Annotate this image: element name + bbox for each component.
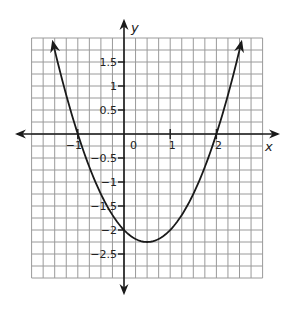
y-tick-label: 1 bbox=[110, 80, 117, 93]
y-tick-label: −2 bbox=[101, 224, 117, 237]
y-tick-label: −0.5 bbox=[90, 152, 117, 165]
x-axis-label: x bbox=[264, 139, 273, 154]
y-tick-label: −1 bbox=[101, 176, 117, 189]
origin-label: 0 bbox=[130, 139, 137, 152]
y-tick-label: 1.5 bbox=[100, 56, 118, 69]
parabola-graph: −11201.510.5−0.5−1−1.5−2−2.5 x y bbox=[0, 0, 285, 309]
y-tick-label: −2.5 bbox=[90, 248, 117, 261]
x-tick-label: 1 bbox=[169, 139, 176, 152]
y-tick-label: 0.5 bbox=[100, 104, 118, 117]
y-tick-label: −1.5 bbox=[90, 200, 117, 213]
y-axis-label: y bbox=[130, 20, 139, 35]
x-tick-label: 2 bbox=[215, 139, 222, 152]
